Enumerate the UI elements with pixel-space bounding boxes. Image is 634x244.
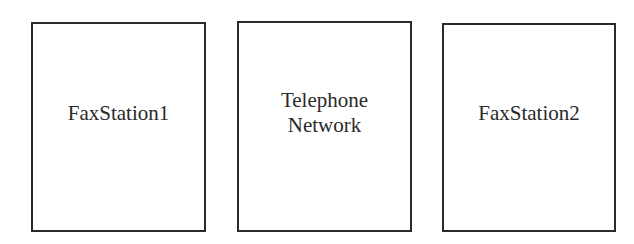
telephone-network-box: Telephone Network xyxy=(237,21,412,232)
fax-station-1-label: FaxStation1 xyxy=(33,100,204,126)
telephone-network-label-line-1: Telephone xyxy=(239,87,410,113)
fax-station-2-box: FaxStation2 xyxy=(442,23,616,232)
fax-station-2-label: FaxStation2 xyxy=(444,100,614,126)
telephone-network-label-line-2: Network xyxy=(239,112,410,138)
fax-station-1-box: FaxStation1 xyxy=(31,22,206,232)
